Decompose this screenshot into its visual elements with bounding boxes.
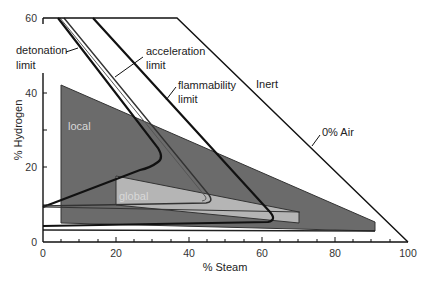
y-tick-20: 20: [25, 161, 37, 173]
x-tick-20: 20: [110, 247, 122, 259]
y-tick-0: 0: [31, 236, 37, 248]
chart: 0 20 40 60 80 100 0 20 40 60 % Steam % H…: [0, 0, 429, 284]
x-tick-40: 40: [183, 247, 195, 259]
y-axis-label: % Hydrogen: [12, 100, 24, 161]
inert-label: Inert: [256, 78, 278, 90]
y-tick-60: 60: [25, 12, 37, 24]
x-tick-0: 0: [40, 247, 46, 259]
detonation-label-2: limit: [16, 59, 36, 71]
flammability-label-2: limit: [178, 93, 198, 105]
x-tick-80: 80: [329, 247, 341, 259]
y-tick-40: 40: [25, 87, 37, 99]
acceleration-label-2: limit: [146, 59, 166, 71]
global-label: global: [119, 190, 148, 202]
x-tick-60: 60: [256, 247, 268, 259]
acceleration-label-1: acceleration: [146, 45, 205, 57]
detonation-label-1: detonation: [16, 44, 67, 56]
local-label: local: [68, 120, 91, 132]
zero-air-label: 0% Air: [322, 126, 354, 138]
x-tick-100: 100: [399, 247, 417, 259]
x-axis-label: % Steam: [203, 261, 248, 273]
flammability-label-1: flammability: [178, 79, 237, 91]
